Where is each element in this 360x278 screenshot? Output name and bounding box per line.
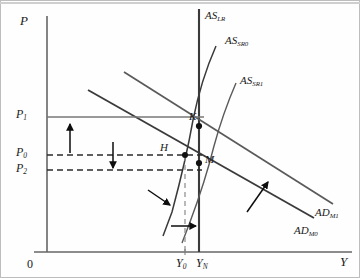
figure-canvas: P Y 0 P1 P0 P2 Y0 YN ASLR ASSR0 ASSR1 AD…: [0, 0, 360, 278]
price-tick-p1-sub: 1: [23, 113, 27, 122]
price-tick-p2-sub: 2: [23, 167, 27, 176]
curve-label-as-sr0-sub: SR0: [237, 40, 248, 47]
curve-label-ad-m1-sub: M1: [330, 212, 339, 219]
point-label-k: K: [189, 111, 196, 122]
curve-label-ad-m1-base: AD: [315, 206, 330, 218]
ad-as-diagram-svg: [0, 0, 360, 278]
y-axis-label: P: [20, 14, 28, 27]
price-tick-p2: P2: [16, 162, 27, 174]
x-axis-label: Y: [340, 255, 347, 268]
curve-label-as-lr-sub: LR: [217, 15, 225, 22]
curve-label-ad-m1: ADM1: [315, 207, 339, 218]
curve-label-as-sr1-sub: SR1: [252, 80, 263, 87]
origin-label: 0: [27, 258, 33, 270]
output-tick-y0: Y0: [176, 257, 186, 269]
curve-label-as-sr1: ASSR1: [240, 75, 263, 86]
price-tick-p0: P0: [16, 146, 27, 158]
output-tick-yn: YN: [196, 257, 208, 269]
curve-label-ad-m0: ADM0: [294, 225, 318, 236]
point-k: [196, 123, 202, 129]
curve-label-as-sr1-base: AS: [240, 74, 252, 86]
curve-label-as-sr0-base: AS: [225, 34, 237, 46]
curve-label-as-sr0: ASSR0: [225, 35, 248, 46]
output-tick-y0-sub: 0: [183, 262, 187, 271]
output-tick-yn-sub: N: [203, 262, 208, 271]
point-label-m: M: [205, 154, 214, 165]
curve-label-as-lr-base: AS: [205, 9, 217, 21]
curve-label-ad-m0-sub: M0: [309, 230, 318, 237]
curve-label-as-lr: ASLR: [205, 10, 225, 21]
curve-label-ad-m0-base: AD: [294, 224, 309, 236]
point-h: [182, 152, 188, 158]
output-tick-yn-base: Y: [196, 256, 203, 270]
point-m: [196, 160, 202, 166]
price-tick-p1: P1: [16, 108, 27, 120]
price-tick-p0-sub: 0: [23, 151, 27, 160]
point-label-h: H: [160, 142, 168, 153]
output-tick-y0-base: Y: [176, 256, 183, 270]
